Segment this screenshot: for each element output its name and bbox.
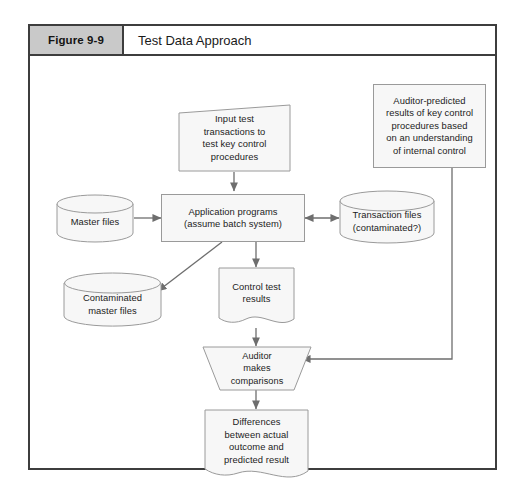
diagram-canvas: Input testtransactions totest key contro… [30, 56, 495, 468]
node-contaminated-master-files[interactable]: Contaminatedmaster files [63, 271, 162, 328]
connector-application-to-contaminated [158, 242, 222, 291]
figure-title-cell: Test Data Approach [124, 26, 495, 54]
figure-frame: Figure 9-9 Test Data Approach [28, 24, 497, 470]
figure-number-label: Figure 9-9 [48, 34, 104, 46]
node-label: Input testtransactions totest key contro… [199, 113, 271, 163]
node-transaction-files[interactable]: Transaction files(contaminated?) [339, 190, 435, 244]
node-control-test-results[interactable]: Control testresults [218, 267, 295, 329]
node-label: Transaction files(contaminated?) [349, 200, 426, 234]
node-label: Auditormakescomparisons [227, 350, 288, 387]
node-label: Master files [67, 208, 124, 229]
node-auditor-makes-comparisons[interactable]: Auditormakescomparisons [202, 346, 312, 391]
node-input-test-transactions[interactable]: Input testtransactions totest key contro… [178, 104, 291, 172]
node-label: Contaminatedmaster files [79, 282, 146, 317]
figure-title-label: Test Data Approach [138, 33, 251, 48]
node-master-files[interactable]: Master files [56, 194, 134, 243]
node-label: Auditor-predictedresults of key controlp… [382, 95, 477, 158]
figure-number-cell: Figure 9-9 [30, 26, 124, 54]
node-differences[interactable]: Differencesbetween actualoutcome andpred… [204, 409, 309, 485]
figure-header: Figure 9-9 Test Data Approach [30, 26, 495, 56]
node-application-programs[interactable]: Application programs(assume batch system… [161, 194, 305, 242]
node-label: Differencesbetween actualoutcome andpred… [220, 416, 293, 478]
node-label: Application programs(assume batch system… [180, 206, 286, 231]
node-auditor-predicted-results[interactable]: Auditor-predictedresults of key controlp… [373, 84, 486, 168]
node-label: Control testresults [228, 281, 285, 316]
